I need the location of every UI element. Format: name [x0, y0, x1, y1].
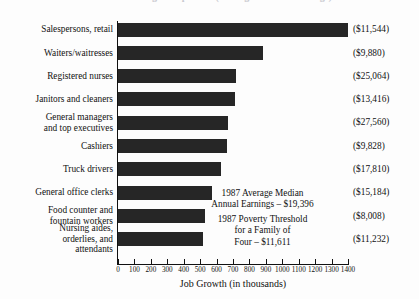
category-label: Waiters/waitresses — [44, 48, 113, 59]
category-label: General managersand top executives — [44, 112, 113, 133]
category-label-line: General managers — [44, 112, 113, 123]
annotation-poverty-threshold: 1987 Poverty Threshold for a Family of F… — [175, 214, 350, 248]
annotation-average-earnings-line2: Annual Earnings – $19,396 — [175, 199, 350, 210]
category-label: Janitors and cleaners — [36, 94, 113, 105]
bar-row[interactable] — [118, 92, 235, 106]
category-label-line: Cashiers — [81, 141, 113, 152]
bar[interactable] — [118, 116, 228, 130]
bar-row[interactable] — [118, 116, 228, 130]
annotation-poverty-threshold-line2: for a Family of — [175, 225, 350, 236]
category-label: General office clerks — [35, 187, 113, 198]
x-axis-tick-label: 1400 — [341, 266, 355, 274]
value-label: ($9,828) — [353, 141, 385, 152]
bar-row[interactable] — [118, 162, 221, 176]
x-axis-tick-label: 300 — [162, 266, 173, 274]
bar[interactable] — [118, 139, 227, 153]
x-axis-tick-label: 900 — [260, 266, 271, 274]
x-axis-tick — [151, 259, 152, 265]
x-axis-tick — [348, 259, 349, 265]
value-label: ($11,232) — [353, 234, 389, 245]
category-label-line: Nursing aides, — [59, 223, 113, 234]
x-axis-tick-label: 0 — [116, 266, 120, 274]
x-axis-title: Job Growth (in thousands) — [117, 278, 349, 289]
value-label: ($13,416) — [353, 94, 389, 105]
x-axis-tick — [266, 259, 267, 265]
category-label: Salespersons, retail — [41, 24, 113, 35]
x-axis-tick-label: 800 — [244, 266, 255, 274]
annotation-poverty-threshold-line3: Four – $11,611 — [175, 237, 350, 248]
x-axis-tick — [315, 259, 316, 265]
bar-chart-plot: 0100200300400500600700800900100011001200… — [0, 0, 419, 299]
value-label: ($9,880) — [353, 48, 385, 59]
x-axis-tick-label: 1200 — [308, 266, 322, 274]
x-axis-tick — [167, 259, 168, 265]
x-axis-tick — [217, 259, 218, 265]
x-axis-tick — [249, 259, 250, 265]
category-label-line: Waiters/waitresses — [44, 48, 113, 59]
x-axis-tick — [233, 259, 234, 265]
x-axis-tick-label: 600 — [211, 266, 222, 274]
category-label: Truck drivers — [63, 164, 113, 175]
category-label: Cashiers — [81, 141, 113, 152]
bar-row[interactable] — [118, 69, 236, 83]
x-axis-tick-label: 400 — [178, 266, 189, 274]
x-axis-tick — [332, 259, 333, 265]
category-label-line: Janitors and cleaners — [36, 94, 113, 105]
x-axis-tick — [299, 259, 300, 265]
x-axis-tick-label: 700 — [228, 266, 239, 274]
value-label: ($25,064) — [353, 71, 389, 82]
x-axis-tick-label: 1300 — [324, 266, 338, 274]
value-label: ($17,810) — [353, 164, 389, 175]
x-axis-tick-label: 200 — [145, 266, 156, 274]
bar[interactable] — [118, 69, 236, 83]
category-label-line: Registered nurses — [47, 71, 113, 82]
category-label-line: General office clerks — [35, 187, 113, 198]
x-axis-tick — [118, 259, 119, 265]
x-axis-tick — [282, 259, 283, 265]
category-label-line: and top executives — [44, 123, 113, 134]
bar-row[interactable] — [118, 139, 227, 153]
bar[interactable] — [118, 46, 263, 60]
category-label: Nursing aides,orderlies, andattendants — [59, 223, 113, 255]
annotation-poverty-threshold-line1: 1987 Poverty Threshold — [175, 214, 350, 225]
x-axis-tick-label: 500 — [195, 266, 206, 274]
annotation-average-earnings-line1: 1987 Average Median — [175, 188, 350, 199]
category-label: Registered nurses — [47, 71, 113, 82]
bar-row[interactable] — [118, 23, 348, 37]
x-axis-tick — [200, 259, 201, 265]
value-label: ($27,560) — [353, 117, 389, 128]
bar-row[interactable] — [118, 46, 263, 60]
x-axis-tick-label: 1000 — [275, 266, 289, 274]
x-axis-tick — [184, 259, 185, 265]
category-label-line: Salespersons, retail — [41, 24, 113, 35]
bar[interactable] — [118, 162, 221, 176]
value-label: ($8,008) — [353, 211, 385, 222]
bar[interactable] — [118, 23, 348, 37]
x-axis-tick-label: 100 — [129, 266, 140, 274]
annotation-average-earnings: 1987 Average Median Annual Earnings – $1… — [175, 188, 350, 211]
value-label: ($15,184) — [353, 187, 389, 198]
value-label: ($11,544) — [353, 24, 389, 35]
x-axis-tick-label: 1100 — [292, 266, 306, 274]
category-label-line: Food counter and — [48, 205, 113, 216]
category-label-line: Truck drivers — [63, 164, 113, 175]
chart-container: Fastest Growing Occupations (Average Ann… — [0, 0, 419, 299]
category-label-line: attendants — [59, 244, 113, 255]
bar[interactable] — [118, 92, 235, 106]
x-axis-tick — [134, 259, 135, 265]
category-label-line: orderlies, and — [59, 234, 113, 245]
